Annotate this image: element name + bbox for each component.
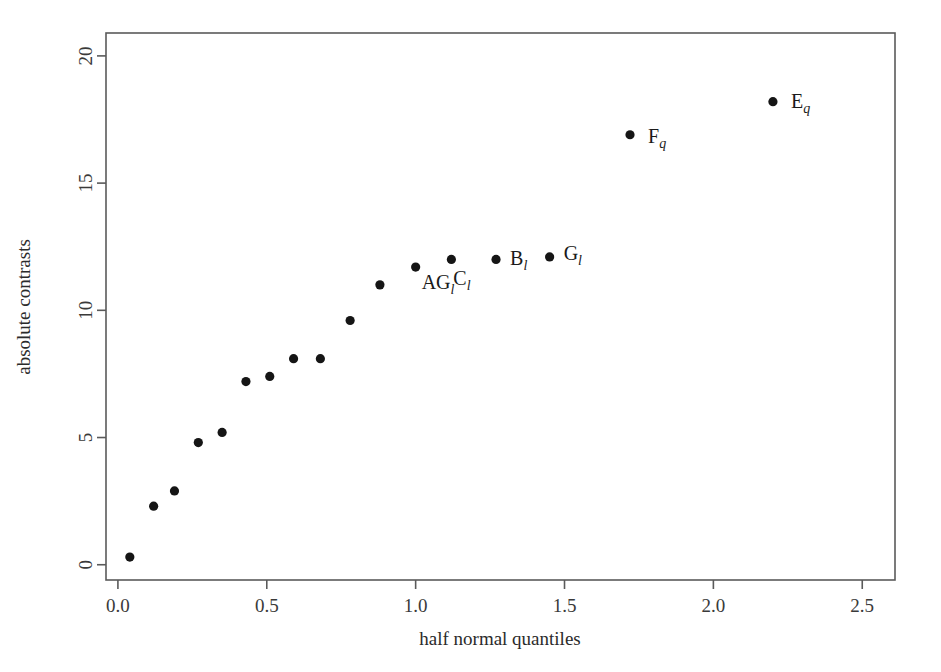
- point-label-subscript: q: [659, 136, 666, 151]
- y-axis-ticks: 05101520: [76, 46, 107, 569]
- y-tick-label: 5: [76, 433, 97, 443]
- point-label: AGl: [422, 271, 455, 297]
- x-tick-label: 0.0: [106, 595, 130, 616]
- data-point: [346, 316, 355, 325]
- x-tick-label: 1.5: [553, 595, 577, 616]
- x-tick-label: 0.5: [255, 595, 279, 616]
- data-points-group: [125, 97, 777, 562]
- data-point: [375, 280, 384, 289]
- data-point: [265, 372, 274, 381]
- point-label: Fq: [648, 125, 666, 151]
- data-point: [447, 255, 456, 264]
- y-tick-label: 20: [76, 46, 97, 65]
- point-labels-group: AGlClBlGlFqEq: [422, 90, 811, 297]
- data-point: [316, 354, 325, 363]
- data-point: [218, 428, 227, 437]
- x-axis-ticks: 0.00.51.01.52.02.5: [106, 580, 874, 616]
- data-point: [194, 438, 203, 447]
- data-point: [289, 354, 298, 363]
- point-label: Gl: [564, 242, 582, 268]
- y-tick-label: 10: [76, 301, 97, 320]
- point-label: Cl: [453, 267, 470, 293]
- point-label: Eq: [791, 90, 810, 116]
- half-normal-plot-figure: 0.00.51.01.52.02.5 05101520 AGlClBlGlFqE…: [0, 0, 941, 672]
- x-tick-label: 2.5: [850, 595, 874, 616]
- y-tick-label: 0: [76, 560, 97, 570]
- x-tick-label: 2.0: [702, 595, 726, 616]
- point-label-subscript: l: [467, 278, 471, 293]
- point-label-subscript: l: [578, 253, 582, 268]
- data-point: [625, 130, 634, 139]
- data-point: [545, 252, 554, 261]
- data-point: [411, 262, 420, 271]
- y-axis-title: absolute contrasts: [13, 239, 34, 375]
- x-axis-title: half normal quantiles: [419, 628, 580, 649]
- point-label-subscript: l: [523, 258, 527, 273]
- data-point: [241, 377, 250, 386]
- plot-frame-rect: [106, 33, 895, 580]
- point-label-subscript: q: [803, 101, 810, 116]
- plot-canvas: 0.00.51.01.52.02.5 05101520 AGlClBlGlFqE…: [0, 0, 941, 672]
- point-label: Bl: [510, 247, 527, 273]
- data-point: [170, 486, 179, 495]
- data-point: [125, 553, 134, 562]
- plot-frame: [106, 33, 895, 580]
- data-point: [491, 255, 500, 264]
- y-tick-label: 15: [76, 174, 97, 193]
- data-point: [768, 97, 777, 106]
- data-point: [149, 502, 158, 511]
- x-tick-label: 1.0: [404, 595, 428, 616]
